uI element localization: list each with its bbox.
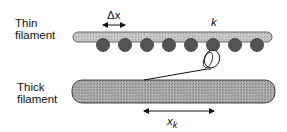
actin-site xyxy=(229,39,242,52)
thick-filament xyxy=(72,80,275,103)
actin-site xyxy=(207,39,220,52)
actin-site xyxy=(97,39,110,52)
actin-site xyxy=(141,39,154,52)
cross-bridge-lever xyxy=(144,69,207,80)
actin-site xyxy=(163,39,176,52)
actin-site xyxy=(119,39,132,52)
actin-site xyxy=(251,39,264,52)
actin-site xyxy=(185,39,198,52)
myosin-head xyxy=(202,48,223,70)
muscle-diagram xyxy=(0,0,287,132)
